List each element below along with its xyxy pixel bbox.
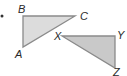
label-x: X: [53, 30, 62, 42]
label-c: C: [80, 10, 88, 22]
triangle-xyz: [62, 36, 115, 68]
bullet-dot: [1, 15, 4, 18]
triangle-abc: [23, 16, 75, 47]
label-a: A: [14, 48, 22, 60]
label-y: Y: [117, 29, 125, 41]
label-b: B: [18, 3, 25, 15]
diagram-canvas: B C A X Y Z: [0, 0, 127, 76]
label-z: Z: [112, 66, 121, 76]
